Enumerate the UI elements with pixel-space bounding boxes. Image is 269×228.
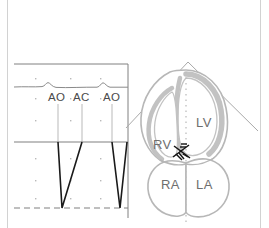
mmode-grid-dot [35,158,36,159]
ecg-surface-trace [14,83,128,88]
mmode-grid-dot [70,120,71,121]
event-label-ao-opening: AO [48,92,65,104]
mmode-grid-dot [35,180,36,181]
mmode-grid-dot [35,198,36,199]
chamber-label-lv: LV [196,116,212,129]
mmode-grid-dot [100,180,101,181]
mmode-grid-dot [70,78,71,79]
chamber-label-ra: RA [161,178,180,191]
figure-artwork [0,0,269,228]
event-label-ao-opening-2: AO [103,92,120,104]
chamber-label-la: LA [196,178,213,191]
mmode-grid-dot [70,98,71,99]
doppler-spike-2 [112,142,127,208]
mmode-grid-dot [100,158,101,159]
mmode-grid-dot [100,198,101,199]
mmode-grid-dot [70,158,71,159]
chamber-label-rv: RV [153,138,172,151]
mmode-grid-dot [70,198,71,199]
event-label-ac-closure: AC [73,92,90,104]
mmode-grid-dot [100,120,101,121]
mmode-grid-dot [35,78,36,79]
mmode-grid-dot [35,98,36,99]
echocardiography-figure: AO AC AO LV RV RA LA [0,0,269,228]
mmode-grid-dot [100,78,101,79]
mmode-grid-dot [35,120,36,121]
mmode-grid-dot [100,98,101,99]
